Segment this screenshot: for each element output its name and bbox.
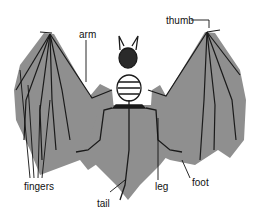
label-thumb: thumb <box>166 16 194 26</box>
label-tail: tail <box>97 199 110 209</box>
label-fingers: fingers <box>24 182 54 192</box>
label-leg: leg <box>155 182 168 192</box>
label-arm: arm <box>79 30 96 40</box>
label-foot: foot <box>192 178 209 188</box>
